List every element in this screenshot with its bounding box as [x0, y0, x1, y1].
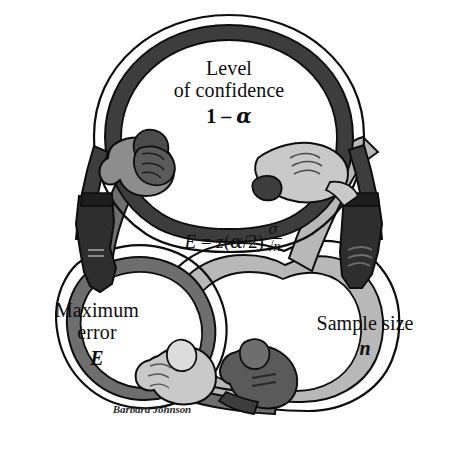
maximum-error-symbol: E [22, 347, 172, 369]
formula-equals: = [201, 231, 212, 252]
label-level-of-confidence: Level of confidence 1 – α [139, 57, 319, 127]
maximum-error-label-line1: Maximum [22, 299, 172, 321]
radical-icon: √ [266, 239, 274, 254]
confidence-interval-diagram: Level of confidence 1 – α Maximum error … [0, 0, 458, 459]
label-maximum-error: Maximum error E [22, 299, 172, 369]
left-cuff-band [81, 193, 113, 206]
right-cuff-glove [340, 193, 382, 288]
maximum-error-label-line2: error [22, 321, 172, 343]
formula-close-paren: ) [258, 231, 264, 252]
bottom-right-thumb-dark [240, 339, 270, 369]
right-glove-shape [340, 196, 382, 288]
formula-denominator-n: n [274, 239, 281, 254]
formula-z: z [216, 231, 223, 252]
sample-size-symbol: n [290, 337, 440, 359]
formula-numerator-sigma: σ [265, 222, 282, 237]
confidence-symbol-alpha: α [236, 104, 251, 128]
confidence-symbol: 1 – α [139, 105, 319, 127]
sample-size-label-line1: Sample size [290, 312, 440, 334]
formula-slash-two: /2 [243, 231, 258, 252]
max-error-formula: E = z(α/2)σ√n [148, 222, 318, 254]
formula-denominator: √n [265, 240, 282, 255]
top-right-dark-grip [252, 176, 281, 201]
formula-fraction: σ√n [265, 222, 282, 254]
formula-alpha: α [230, 230, 243, 252]
artist-signature: Barbara Johnson [92, 403, 212, 415]
formula-lhs: E [184, 231, 196, 252]
confidence-label-line2: of confidence [139, 79, 319, 101]
label-sample-size: Sample size n [290, 312, 440, 360]
confidence-label-line1: Level [139, 57, 319, 79]
confidence-symbol-prefix: 1 – [206, 105, 236, 127]
